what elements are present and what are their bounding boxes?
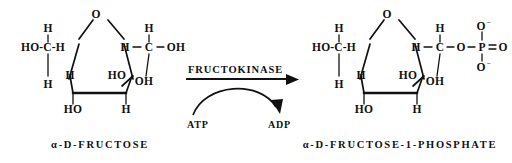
phosphate-double-bond-oxygen: O: [498, 41, 507, 53]
product-c3-h: H: [412, 103, 421, 115]
product-c4-h: H: [356, 69, 365, 81]
adp-label: ADP: [268, 119, 291, 130]
product-c2-oh: OH: [426, 75, 444, 87]
enzyme-label: FRUCTOKINASE: [188, 64, 283, 75]
product-c6-hydroxymethyl: HO-C-H: [312, 41, 356, 53]
reactant-c1-top-h: H: [144, 22, 153, 34]
product-c3-ho: HO: [399, 69, 417, 81]
reactant-c6-top-h: H: [43, 22, 52, 34]
atp-label: ATP: [187, 119, 209, 130]
reactant-c1-carbon: C: [145, 41, 154, 53]
reactant-c1-oh: OH: [167, 41, 185, 53]
product-ring-bonds: [360, 20, 424, 93]
phosphate-linker-oxygen: O: [456, 41, 465, 53]
reaction-arrow-group: FRUCTOKINASE ATP ADP: [186, 64, 299, 130]
phosphate-top-charge: −: [487, 19, 491, 27]
reactant-c6-hydroxymethyl: HO-C-H: [21, 41, 65, 53]
reactant-c3-h: H: [121, 103, 130, 115]
product-label: α-D-FRUCTOSE-1-PHOSPHATE: [303, 139, 497, 150]
reactant-c1-left-h: H: [120, 41, 129, 53]
phosphate-bottom-charge: −: [487, 60, 491, 68]
reaction-diagram: O H HO-C-H H H HO HO H OH H H C O: [0, 0, 512, 163]
product-structure: O H HO-C-H H H HO HO H OH H H C: [303, 8, 508, 150]
cofactor-arrow-head: [271, 99, 283, 114]
reactant-label: α-D-FRUCTOSE: [51, 139, 149, 150]
reactant-c5-h: H: [43, 78, 52, 90]
reactant-ring-oxygen: O: [91, 8, 100, 20]
reactant-c3-ho: HO: [108, 69, 126, 81]
phosphate-group: O P O O − O −: [447, 19, 508, 73]
phosphate-top-oxygen: O: [476, 20, 485, 32]
reactant-c2-oh: OH: [135, 75, 153, 87]
phosphate-bottom-oxygen: O: [476, 61, 485, 73]
reaction-arrow-head: [286, 74, 299, 85]
product-c1-top-h: H: [435, 22, 444, 34]
product-ring-oxygen: O: [382, 8, 391, 20]
reactant-c4-oh: HO: [64, 103, 82, 115]
product-c5-h: H: [334, 78, 343, 90]
reactant-c4-h: H: [65, 69, 74, 81]
reactant-structure: O H HO-C-H H H HO HO H OH H H C O: [21, 8, 185, 150]
product-c1-left-h: H: [411, 41, 420, 53]
product-c6-top-h: H: [334, 22, 343, 34]
product-c1-carbon: C: [436, 41, 445, 53]
reaction-canvas: O H HO-C-H H H HO HO H OH H H C O: [0, 0, 512, 163]
reactant-ring-bonds: [69, 20, 133, 93]
phosphorus-atom: P: [478, 41, 485, 53]
product-c4-oh: HO: [355, 103, 373, 115]
cofactor-curve: [193, 89, 276, 115]
